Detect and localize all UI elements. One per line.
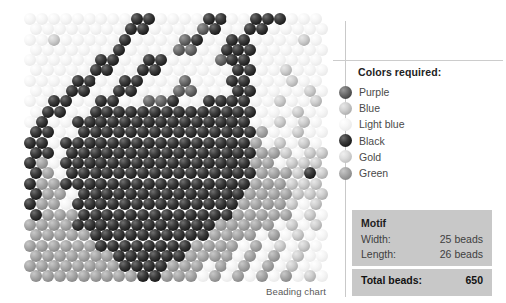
bead-row [24, 75, 328, 85]
bead-row [24, 64, 328, 74]
bead-lightblue[interactable] [221, 270, 233, 282]
legend-label-gold: Gold [359, 151, 381, 163]
motif-summary-box: Motif Width: 25 beads Length: 26 beads T… [352, 210, 492, 296]
bead-row [24, 240, 328, 250]
bead-green[interactable] [209, 270, 221, 282]
motif-divider [352, 266, 492, 269]
bead-row [24, 95, 328, 105]
bead-green[interactable] [30, 270, 42, 282]
bead-row [24, 167, 328, 177]
motif-total-row: Total beads: 650 [361, 273, 483, 288]
bead-row [24, 126, 328, 136]
motif-width-row: Width: 25 beads [361, 232, 483, 247]
legend-list: PurpleBlueLight blueBlackGoldGreen [338, 84, 405, 181]
bead-row [24, 13, 328, 23]
bead-row [24, 44, 328, 54]
motif-length-row: Length: 26 beads [361, 247, 483, 262]
bead-lightblue[interactable] [268, 270, 280, 282]
motif-width-label: Width: [361, 232, 391, 247]
legend-item-black[interactable]: Black [338, 133, 405, 149]
bead-row [24, 147, 328, 157]
bead-green[interactable] [113, 270, 125, 282]
legend-item-green[interactable]: Green [338, 165, 405, 181]
motif-length-value: 26 beads [440, 247, 483, 262]
bead-green[interactable] [78, 270, 90, 282]
bead-lightblue[interactable] [197, 270, 209, 282]
bead-row [24, 54, 328, 64]
bead-row [24, 116, 328, 126]
bead-green[interactable] [90, 270, 102, 282]
bead-green[interactable] [125, 270, 137, 282]
bead-black[interactable] [137, 270, 149, 282]
bead-green[interactable] [280, 270, 292, 282]
bead-green[interactable] [256, 270, 268, 282]
bead-row [24, 270, 328, 280]
bead-row [24, 23, 328, 33]
beading-chart-area: Beading chart [0, 0, 336, 303]
motif-length-label: Length: [361, 247, 396, 262]
bead-green[interactable] [42, 270, 54, 282]
bead-row [24, 157, 328, 167]
legend-bead-black-icon [339, 134, 352, 147]
bead-green[interactable] [54, 270, 66, 282]
motif-width-value: 25 beads [440, 232, 483, 247]
bead-row [24, 34, 328, 44]
legend-bead-green-icon [339, 167, 352, 180]
bead-row [24, 198, 328, 208]
legend-title: Colors required: [358, 66, 441, 78]
bead-row [24, 106, 328, 116]
bead-row [24, 219, 328, 229]
bead-lightblue[interactable] [292, 270, 304, 282]
bead-row [24, 229, 328, 239]
bead-grid[interactable] [24, 13, 328, 281]
bead-row [24, 137, 328, 147]
bead-green[interactable] [173, 270, 185, 282]
legend-label-purple: Purple [359, 86, 389, 98]
legend-bead-purple-icon [339, 86, 352, 99]
bead-row [24, 260, 328, 270]
legend-bead-gold-icon [339, 150, 352, 163]
bead-blue[interactable] [304, 270, 316, 282]
bead-lightblue[interactable] [244, 270, 256, 282]
motif-total-value: 650 [465, 273, 483, 288]
legend-label-blue: Blue [359, 102, 380, 114]
legend-label-lightblue: Light blue [359, 118, 405, 130]
motif-total-label: Total beads: [361, 273, 422, 288]
motif-title: Motif [361, 217, 483, 229]
legend-bead-lightblue-icon [339, 118, 352, 131]
bead-black[interactable] [149, 270, 161, 282]
bead-green[interactable] [66, 270, 78, 282]
legend-item-blue[interactable]: Blue [338, 100, 405, 116]
legend-item-purple[interactable]: Purple [338, 84, 405, 100]
bead-row [24, 250, 328, 260]
bead-row [24, 209, 328, 219]
bead-row [24, 188, 328, 198]
info-panel: Colors required: PurpleBlueLight blueBla… [336, 0, 506, 303]
legend-label-black: Black [359, 135, 385, 147]
legend-label-green: Green [359, 167, 388, 179]
chart-caption: Beading chart [266, 286, 326, 297]
bead-green[interactable] [185, 270, 197, 282]
legend-item-gold[interactable]: Gold [338, 149, 405, 165]
bead-green[interactable] [101, 270, 113, 282]
panel-horizontal-divider [333, 60, 503, 61]
legend-bead-blue-icon [339, 102, 352, 115]
bead-green[interactable] [161, 270, 173, 282]
bead-lightblue[interactable] [316, 270, 328, 282]
legend-item-lightblue[interactable]: Light blue [338, 116, 405, 132]
bead-row [24, 85, 328, 95]
bead-green[interactable] [232, 270, 244, 282]
bead-row [24, 178, 328, 188]
